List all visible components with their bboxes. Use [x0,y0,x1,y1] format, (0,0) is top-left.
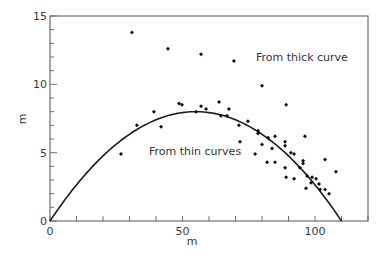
fitted-curve [50,112,342,221]
data-point-diamond-icon [273,160,277,164]
data-point-diamond-icon [314,177,318,181]
data-point-diamond-icon [283,166,287,170]
scatter-chart: 051015 050100 m m From thick curve From … [0,0,385,261]
data-point-diamond-icon [246,119,250,123]
data-point-diamond-icon [227,107,231,111]
data-point-diamond-icon [260,84,264,88]
data-point-diamond-icon [152,110,156,114]
data-point-diamond-icon [283,140,287,144]
data-point-diamond-icon [199,104,203,108]
data-point-diamond-icon [159,125,163,129]
data-point-diamond-icon [323,188,327,192]
x-axis-ticks: 050100 [47,216,369,238]
y-axis-ticks: 051015 [33,10,57,228]
data-point-diamond-icon [232,59,236,63]
data-point-diamond-icon [237,123,241,127]
curve-path [50,112,342,221]
data-point-diamond-icon [273,134,277,138]
data-point-diamond-icon [292,177,296,181]
data-point-diamond-icon [284,175,288,179]
x-tick-label: 100 [305,225,326,238]
data-point-diamond-icon [204,107,208,111]
data-point-diamond-icon [130,30,134,34]
y-tick-label: 15 [33,10,47,23]
data-point-diamond-icon [317,182,321,186]
data-point-diamond-icon [238,140,242,144]
data-point-diamond-icon [260,142,264,146]
data-point-diamond-icon [283,144,287,148]
data-point-diamond-icon [284,103,288,107]
data-point-diamond-icon [270,147,274,151]
data-point-diamond-icon [303,134,307,138]
y-tick-label: 5 [40,147,47,160]
y-tick-label: 10 [33,78,47,91]
data-point-diamond-icon [327,192,331,196]
annotation-thin-curves: From thin curves [149,145,241,158]
data-point-diamond-icon [217,100,221,104]
data-point-diamond-icon [334,170,338,174]
data-point-diamond-icon [135,123,139,127]
y-axis-label: m [16,114,29,125]
data-point-diamond-icon [265,160,269,164]
data-point-diamond-icon [304,186,308,190]
data-point-diamond-icon [253,152,257,156]
annotation-thick-curve: From thick curve [256,51,348,64]
data-point-diamond-icon [194,110,198,114]
x-axis-label: m [187,235,198,248]
x-tick-label: 0 [47,225,54,238]
data-point-diamond-icon [119,152,123,156]
data-point-diamond-icon [323,158,327,162]
data-point-diamond-icon [166,47,170,51]
data-point-diamond-icon [301,162,305,166]
data-point-diamond-icon [199,52,203,56]
